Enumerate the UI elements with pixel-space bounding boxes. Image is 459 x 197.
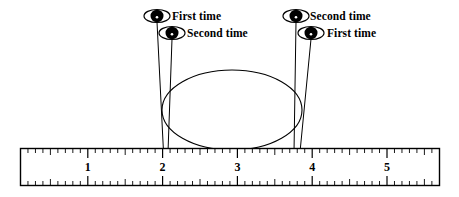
ellipse-group xyxy=(162,70,302,150)
leader-line-group xyxy=(157,22,311,152)
ruler-number: 3 xyxy=(234,161,240,173)
eye-marker-icon xyxy=(283,10,309,23)
eye-marker-icon xyxy=(298,27,324,40)
ellipse-ruler-figure: First time Second time Second time First… xyxy=(0,0,459,197)
leader-line-right-second xyxy=(294,22,296,152)
leader-line-right-first xyxy=(300,39,311,152)
callout-label-right-first: First time xyxy=(327,28,376,40)
ruler-number: 5 xyxy=(384,161,390,173)
ruler-body xyxy=(21,149,440,186)
eye-marker-icon xyxy=(159,27,185,40)
leader-line-left-first xyxy=(157,22,164,152)
leader-line-left-second xyxy=(168,39,172,152)
eye-marker-icon xyxy=(144,10,170,23)
ruler-number: 1 xyxy=(85,161,91,173)
callout-label-right-second: Second time xyxy=(310,11,371,23)
callout-label-left-first: First time xyxy=(172,11,221,23)
ruler xyxy=(21,149,440,186)
callout-label-left-second: Second time xyxy=(187,28,248,40)
ruler-number: 2 xyxy=(160,161,166,173)
ellipse-outline xyxy=(162,70,302,150)
ruler-number: 4 xyxy=(309,161,315,173)
